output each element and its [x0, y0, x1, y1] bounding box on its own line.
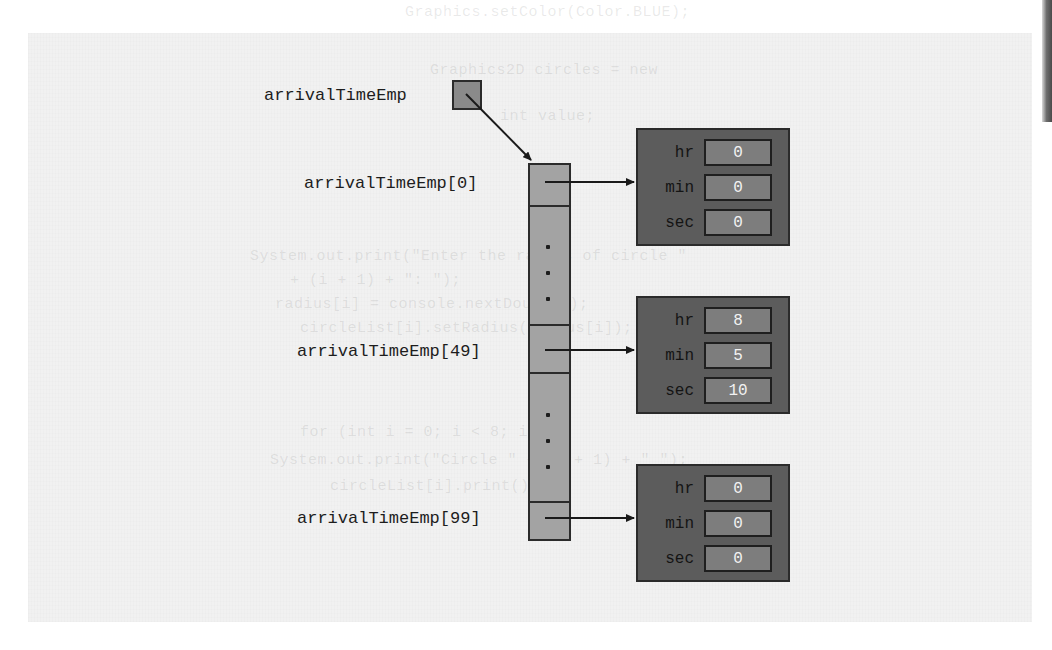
- struct-row-sec: sec 0: [638, 206, 788, 239]
- scan-edge-strip: [1042, 0, 1052, 122]
- array-cell-divider-3: [530, 372, 569, 374]
- struct-field-label-hr: hr: [638, 480, 704, 498]
- pointer-variable-box: [452, 80, 482, 110]
- struct-field-label-sec: sec: [638, 382, 704, 400]
- struct-field-value-min: 0: [704, 510, 772, 537]
- struct-field-value-min: 0: [704, 174, 772, 201]
- struct-row-hr: hr 8: [638, 304, 788, 337]
- struct-row-min: min 0: [638, 171, 788, 204]
- struct-field-label-min: min: [638, 515, 704, 533]
- array-cell-divider-2: [530, 324, 569, 326]
- array-ellipsis-dot: [546, 297, 550, 301]
- array-ellipsis-dot: [546, 271, 550, 275]
- struct-field-label-sec: sec: [638, 550, 704, 568]
- bleed-text-line-1: Graphics.setColor(Color.BLUE);: [405, 4, 690, 21]
- figure-page: Graphics.setColor(Color.BLUE); Graphics2…: [0, 0, 1052, 650]
- array-cell-divider-4: [530, 501, 569, 503]
- array-index-label-49: arrivalTimeEmp[49]: [297, 342, 481, 361]
- struct-field-value-hr: 0: [704, 139, 772, 166]
- struct-field-value-hr: 0: [704, 475, 772, 502]
- pointer-variable-label: arrivalTimeEmp: [264, 86, 407, 105]
- struct-row-sec: sec 0: [638, 542, 788, 575]
- struct-row-sec: sec 10: [638, 374, 788, 407]
- struct-field-value-sec: 0: [704, 209, 772, 236]
- struct-field-label-min: min: [638, 347, 704, 365]
- array-ellipsis-dot: [546, 465, 550, 469]
- array-ellipsis-dot: [546, 439, 550, 443]
- array-index-label-99: arrivalTimeEmp[99]: [297, 509, 481, 528]
- struct-field-label-hr: hr: [638, 312, 704, 330]
- struct-row-hr: hr 0: [638, 136, 788, 169]
- array-index-label-0: arrivalTimeEmp[0]: [304, 174, 477, 193]
- struct-row-min: min 0: [638, 507, 788, 540]
- struct-box-0: hr 0 min 0 sec 0: [636, 128, 790, 246]
- struct-field-label-hr: hr: [638, 144, 704, 162]
- array-cell-divider-1: [530, 205, 569, 207]
- struct-field-value-min: 5: [704, 342, 772, 369]
- struct-box-49: hr 8 min 5 sec 10: [636, 296, 790, 414]
- array-column: [528, 163, 571, 541]
- struct-row-min: min 5: [638, 339, 788, 372]
- struct-field-label-min: min: [638, 179, 704, 197]
- array-ellipsis-dot: [546, 413, 550, 417]
- array-ellipsis-dot: [546, 245, 550, 249]
- struct-row-hr: hr 0: [638, 472, 788, 505]
- struct-field-value-sec: 0: [704, 545, 772, 572]
- struct-field-value-sec: 10: [704, 377, 772, 404]
- struct-field-value-hr: 8: [704, 307, 772, 334]
- struct-field-label-sec: sec: [638, 214, 704, 232]
- struct-box-99: hr 0 min 0 sec 0: [636, 464, 790, 582]
